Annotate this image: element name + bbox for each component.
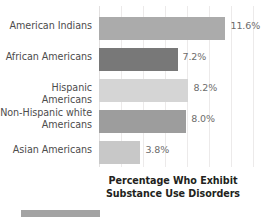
category-label-african-americans: African Americans: [0, 51, 92, 63]
bar: [99, 17, 225, 40]
bar-chart-figure: 11.6% 7.2% 8.2% 8.0% 3.8% American India…: [0, 0, 268, 217]
bar-value-label: 11.6%: [230, 20, 260, 31]
bar-row: 7.2%: [99, 44, 268, 75]
bar-row: 11.6%: [99, 13, 268, 44]
bar: [99, 110, 186, 133]
category-label-non-hispanic-white-americans: Non-Hispanic white Americans: [0, 107, 92, 130]
bar: [99, 48, 178, 71]
category-label-hispanic-americans: Hispanic Americans: [0, 82, 92, 105]
plot-area: 11.6% 7.2% 8.2% 8.0% 3.8%: [99, 6, 268, 167]
bottom-color-swatch: [21, 210, 100, 217]
caption-line-1: Percentage Who Exhibit: [99, 175, 247, 188]
bar-row: 8.2%: [99, 75, 268, 106]
bar: [99, 79, 188, 102]
caption-line-2: Substance Use Disorders: [99, 188, 247, 201]
bar-row: 3.8%: [99, 137, 268, 168]
bar-value-label: 8.2%: [193, 82, 217, 93]
category-label-asian-americans: Asian Americans: [0, 144, 92, 156]
bar-row: 8.0%: [99, 106, 268, 137]
bar-value-label: 8.0%: [191, 113, 215, 124]
chart-caption: Percentage Who Exhibit Substance Use Dis…: [99, 175, 247, 200]
bar-value-label: 3.8%: [145, 144, 169, 155]
bar-value-label: 7.2%: [183, 51, 207, 62]
bar: [99, 141, 140, 164]
category-label-american-indians: American Indians: [0, 20, 92, 32]
